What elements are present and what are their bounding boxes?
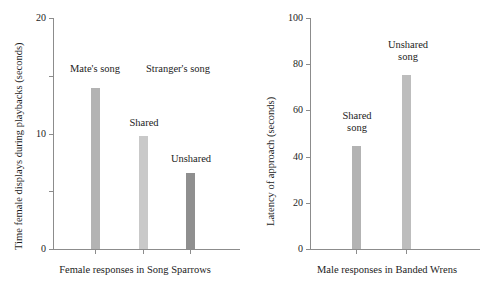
y-tick-label-left-20: 20	[18, 13, 46, 23]
bar-label-shared-song-line1: Shared	[321, 110, 393, 122]
y-tick-right-100	[306, 18, 310, 19]
bar-label-unshared: Unshared	[150, 153, 232, 165]
y-tick-label-right-20: 20	[270, 198, 303, 208]
bar-mates-song	[91, 88, 100, 249]
bar-label-shared-song-line2: song	[321, 122, 393, 134]
x-tick-left-3	[190, 250, 191, 254]
figure-bar-charts: Time female displays during playbacks (s…	[0, 0, 481, 291]
caption-left: Female responses in Song Sparrows	[30, 264, 240, 276]
y-tick-right-40	[306, 157, 310, 158]
y-tick-left-10	[49, 134, 53, 135]
bar-label-strangers-song: Stranger's song	[108, 63, 248, 75]
bar-label-shared: Shared	[104, 117, 184, 129]
y-tick-label-right-100: 100	[270, 13, 303, 23]
x-tick-right-2	[406, 250, 407, 254]
y-tick-right-60	[306, 110, 310, 111]
panel-banded-wrens: Latency of approach (seconds) 100 80 60 …	[250, 0, 481, 291]
y-tick-right-20	[306, 203, 310, 204]
y-tick-label-left-10: 10	[18, 129, 46, 139]
bar-label-unshared-song-line2: song	[370, 51, 446, 63]
y-tick-label-right-40: 40	[270, 152, 303, 162]
caption-right: Male responses in Banded Wrens	[292, 264, 481, 276]
bar-unshared-song	[402, 75, 411, 249]
panel-song-sparrows: Time female displays during playbacks (s…	[0, 0, 250, 291]
y-tick-left-15	[49, 76, 53, 77]
bar-shared-song	[352, 146, 361, 249]
y-tick-label-right-0: 0	[270, 244, 303, 254]
x-tick-right-1	[356, 250, 357, 254]
y-tick-left-0	[49, 249, 53, 250]
y-tick-right-80	[306, 64, 310, 65]
y-tick-left-20	[49, 18, 53, 19]
y-tick-label-right-60: 60	[270, 105, 303, 115]
x-axis-line-left	[53, 249, 240, 250]
x-axis-line-right	[310, 249, 480, 250]
y-axis-line-left	[53, 18, 54, 250]
y-axis-line-right	[310, 18, 311, 250]
y-tick-left-5	[49, 191, 53, 192]
x-tick-left-2	[143, 250, 144, 254]
bar-shared	[139, 136, 148, 249]
y-axis-title-left: Time female displays during playbacks (s…	[13, 42, 24, 250]
x-tick-left-1	[95, 250, 96, 254]
y-tick-right-0	[306, 249, 310, 250]
bar-label-unshared-song-line1: Unshared	[370, 39, 446, 51]
bar-unshared	[186, 173, 195, 249]
y-tick-label-left-0: 0	[18, 244, 46, 254]
y-tick-label-right-80: 80	[270, 59, 303, 69]
